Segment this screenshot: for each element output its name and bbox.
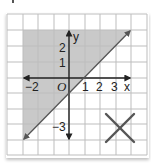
y-axis-label: y [73,30,79,44]
x-tick-1: 1 [82,80,89,94]
graph-card: −2 O 1 2 3 x y 2 1 −3 [0,0,151,164]
y-tick-1: 1 [59,56,66,70]
x-tick-2: 2 [96,80,103,94]
x-tick-neg2: −2 [25,80,39,94]
origin-label: O [57,79,67,94]
x-mark-icon [106,114,134,142]
coordinate-plane: −2 O 1 2 3 x y 2 1 −3 [0,0,151,164]
y-tick-neg3: −3 [52,120,66,134]
x-axis-label: x [124,80,130,94]
x-tick-3: 3 [111,80,118,94]
y-tick-2: 2 [59,41,66,55]
